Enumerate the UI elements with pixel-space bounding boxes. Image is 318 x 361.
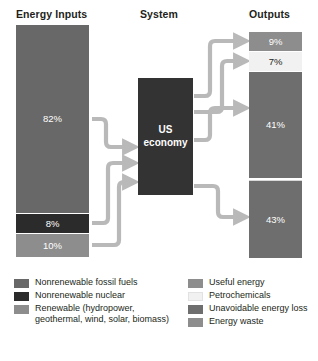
output-segment-unavoidable-loss: 41%: [249, 72, 302, 178]
system-box-label-line1: US: [159, 124, 173, 135]
legend-swatch-unavoidable-loss: [188, 305, 203, 314]
legend-swatch-nuclear: [14, 292, 29, 301]
legend-item: Petrochemicals: [188, 290, 318, 301]
legend-swatch-fossil-fuels: [14, 279, 29, 288]
legend-item: Useful energy: [188, 277, 318, 288]
energy-flow-diagram: Energy Inputs System Outputs 82%: [0, 0, 318, 361]
legend-column-inputs: Nonrenewable fossil fuels Nonrenewable n…: [14, 277, 184, 327]
input-segment-renewable-label: 10%: [43, 241, 62, 251]
flow-arrow-fossil-to-system: [92, 119, 133, 147]
system-box-us-economy: US economy: [138, 78, 193, 195]
flow-arrow-system-to-useful-energy: [194, 41, 244, 96]
legend-item: Nonrenewable nuclear: [14, 290, 184, 301]
legend-label-renewable: Renewable (hydropower, geothermal, wind,…: [35, 303, 184, 325]
legend: Nonrenewable fossil fuels Nonrenewable n…: [0, 277, 318, 361]
input-segment-fossil-fuels: 82%: [16, 25, 89, 213]
input-segment-renewable: 10%: [16, 234, 89, 257]
flow-arrow-nuclear-to-system: [92, 163, 133, 223]
legend-label-unavoidable-loss: Unavoidable energy loss: [209, 303, 308, 314]
input-segment-nuclear: 8%: [16, 214, 89, 233]
output-segment-useful-energy: 9%: [249, 32, 302, 51]
legend-item: Unavoidable energy loss: [188, 303, 318, 314]
input-segment-nuclear-label: 8%: [46, 219, 60, 229]
legend-column-outputs: Useful energy Petrochemicals Unavoidable…: [188, 277, 318, 329]
legend-item: Energy waste: [188, 316, 318, 327]
legend-label-petrochemicals: Petrochemicals: [209, 290, 271, 301]
legend-item: Nonrenewable fossil fuels: [14, 277, 184, 288]
legend-item: Renewable (hydropower, geothermal, wind,…: [14, 303, 184, 325]
output-segment-energy-waste: 43%: [249, 180, 302, 258]
legend-swatch-renewable: [14, 305, 29, 314]
legend-swatch-petrochemicals: [188, 292, 203, 301]
output-segment-petrochemicals-label: 7%: [269, 57, 283, 67]
legend-label-energy-waste: Energy waste: [209, 316, 264, 327]
legend-label-nuclear: Nonrenewable nuclear: [35, 290, 125, 301]
flow-arrow-system-to-petrochemicals: [194, 61, 244, 112]
output-segment-useful-energy-label: 9%: [269, 37, 283, 47]
legend-swatch-energy-waste: [188, 318, 203, 327]
input-segment-fossil-fuels-label: 82%: [43, 114, 62, 124]
legend-label-useful-energy: Useful energy: [209, 277, 265, 288]
legend-swatch-useful-energy: [188, 279, 203, 288]
output-segment-unavoidable-loss-label: 41%: [266, 120, 285, 130]
output-segment-energy-waste-label: 43%: [266, 215, 285, 225]
flow-arrow-system-to-energy-waste: [194, 186, 244, 217]
legend-label-fossil-fuels: Nonrenewable fossil fuels: [35, 277, 138, 288]
output-segment-petrochemicals: 7%: [249, 52, 302, 71]
flow-arrow-renewable-to-system: [92, 182, 133, 245]
system-box-label-line2: economy: [144, 137, 188, 148]
